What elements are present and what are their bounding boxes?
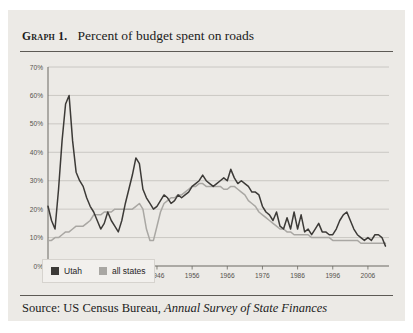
figure-source: Source: US Census Bureau, Annual Survey … <box>22 301 327 316</box>
svg-text:60%: 60% <box>30 92 43 99</box>
source-publication: Annual Survey of State Finances <box>164 301 327 315</box>
line-chart: 0%10%20%30%40%50%60%70% 1916192619361946… <box>20 58 393 290</box>
svg-text:30%: 30% <box>30 177 43 184</box>
legend-swatch-all-states <box>99 267 107 275</box>
figure-card: Graph 1. Percent of budget spent on road… <box>8 10 405 321</box>
y-axis-tick-labels: 0%10%20%30%40%50%60%70% <box>30 64 43 270</box>
figure-caption: Graph 1. Percent of budget spent on road… <box>22 26 392 48</box>
svg-text:1966: 1966 <box>220 272 235 279</box>
source-prefix: Source: US Census Bureau, <box>22 301 161 315</box>
svg-text:1976: 1976 <box>255 272 270 279</box>
legend-item-all-states: all states <box>99 266 146 276</box>
chart-plot-area: 0%10%20%30%40%50%60%70% 1916192619361946… <box>20 58 393 290</box>
chart-legend: Utah all states <box>42 259 155 283</box>
caption-rule-top <box>20 51 393 52</box>
source-rule <box>20 295 393 296</box>
svg-text:40%: 40% <box>30 149 43 156</box>
legend-label-all-states: all states <box>112 266 146 276</box>
svg-text:70%: 70% <box>30 64 43 71</box>
legend-item-utah: Utah <box>51 266 82 276</box>
svg-text:1986: 1986 <box>290 272 305 279</box>
gridlines <box>48 67 389 238</box>
svg-text:20%: 20% <box>30 206 43 213</box>
data-series-layer <box>48 95 385 246</box>
caption-label: Graph 1. <box>22 30 68 42</box>
axis-lines <box>48 67 389 270</box>
svg-text:1996: 1996 <box>325 272 340 279</box>
caption-title: Percent of budget spent on roads <box>78 28 255 43</box>
svg-text:1956: 1956 <box>185 272 200 279</box>
svg-text:50%: 50% <box>30 120 43 127</box>
legend-label-utah: Utah <box>64 266 82 276</box>
svg-text:2006: 2006 <box>361 272 376 279</box>
legend-swatch-utah <box>51 267 59 275</box>
svg-text:10%: 10% <box>30 234 43 241</box>
